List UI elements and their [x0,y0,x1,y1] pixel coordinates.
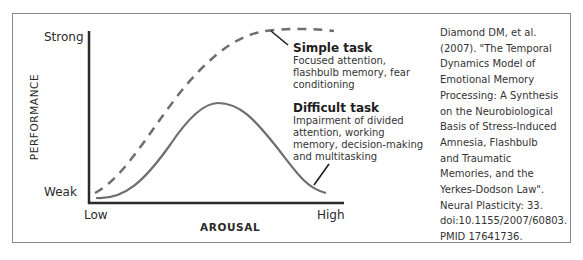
citation-line: on the Neurobiological [440,104,568,120]
citation-line: Processing: A Synthesis [440,88,568,104]
citation-line: Memories, and the [440,166,568,182]
citation-line: PMID 17641736. [440,229,568,245]
simple-task-line: Focused attention, [293,55,410,67]
difficult-task-line: memory, decision-making [293,139,423,151]
difficult-task-line: attention, working [293,127,423,139]
citation-line: Yerkes-Dodson Law". [440,182,568,198]
citation-line: Emotional Memory [440,72,568,88]
x-axis-title: AROUSAL [200,221,260,233]
citation-line: Amnesia, Flashbulb [440,135,568,151]
difficult-task-annotation: Difficult task Impairment of divided att… [293,101,423,163]
x-tick-high: High [317,208,345,222]
difficult-task-title: Difficult task [293,101,423,115]
citation-line: Diamond DM, et al. [440,25,568,41]
difficult-task-line: Impairment of divided [293,115,423,127]
difficult-task-line: and multitasking [293,151,423,163]
y-tick-strong: Strong [44,30,84,44]
difficult-task-leader [314,164,329,185]
citation-line: (2007). "The Temporal [440,41,568,57]
citation-line: doi:10.1155/2007/60803. [440,213,568,229]
simple-task-annotation: Simple task Focused attention, flashbulb… [293,41,410,91]
simple-task-title: Simple task [293,41,410,55]
difficult-task-curve [96,103,326,198]
y-tick-weak: Weak [44,185,77,199]
y-axis-title: PERFORMANCE [28,74,40,161]
citation-line: Neural Plasticity: 33. [440,198,568,214]
citation-line: Basis of Stress-Induced [440,119,568,135]
citation-line: Dynamics Model of [440,56,568,72]
simple-task-line: conditioning [293,79,410,91]
citation: Diamond DM, et al. (2007). "The Temporal… [440,25,568,245]
simple-task-line: flashbulb memory, fear [293,67,410,79]
citation-line: and Traumatic [440,151,568,167]
x-tick-low: Low [84,208,108,222]
simple-task-leader [271,31,288,45]
